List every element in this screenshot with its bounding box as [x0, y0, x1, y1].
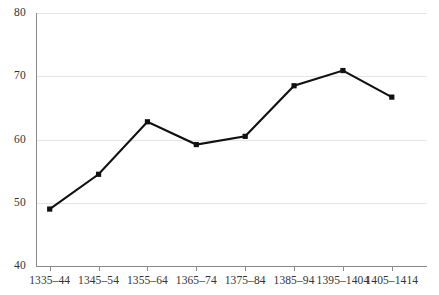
- data-point-3: [194, 142, 199, 147]
- line-chart: 80 70 60 50 40 1335–44 1345–54 1355–64 1…: [0, 0, 439, 295]
- data-point-5: [291, 83, 296, 88]
- data-point-4: [243, 134, 248, 139]
- data-series-layer: [0, 0, 439, 295]
- data-point-2: [145, 119, 150, 124]
- data-point-1: [96, 172, 101, 177]
- data-point-6: [340, 68, 345, 73]
- data-point-0: [47, 206, 52, 211]
- data-point-7: [389, 95, 394, 100]
- series-line: [50, 71, 392, 210]
